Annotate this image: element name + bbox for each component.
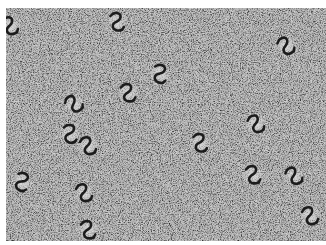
- particle: [299, 205, 321, 227]
- micrograph-canvas: [6, 8, 326, 241]
- particle: [73, 182, 95, 204]
- particle: [77, 135, 99, 157]
- micrograph-image: [6, 8, 326, 241]
